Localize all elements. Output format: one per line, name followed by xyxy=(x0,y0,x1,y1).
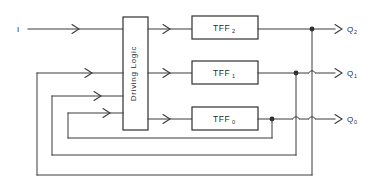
tff0-label: TFF xyxy=(213,114,230,124)
q1-arrowhead-icon xyxy=(335,69,342,78)
feedback-path-1 xyxy=(52,92,296,156)
input-label: I xyxy=(17,25,19,34)
feedback-path-2 xyxy=(37,69,312,176)
q2-label: Q xyxy=(347,25,353,34)
q0-label: Q xyxy=(347,115,353,124)
tff1-label-subscript: 1 xyxy=(232,73,235,79)
circuit-diagram-figure: Driving Logic TFF 2 Q 2 TFF 1 xyxy=(0,0,377,193)
q0-arrowhead-icon xyxy=(335,115,342,124)
tff2-row: TFF 2 Q 2 xyxy=(148,16,357,39)
input-line-group xyxy=(28,25,123,34)
tff1-row: TFF 1 Q 1 xyxy=(148,61,357,84)
circuit-canvas: Driving Logic TFF 2 Q 2 TFF 1 xyxy=(0,0,377,193)
q2-label-subscript: 2 xyxy=(354,29,357,35)
q1-label: Q xyxy=(347,69,353,78)
tff2-label-subscript: 2 xyxy=(232,28,235,34)
q0-label-subscript: 0 xyxy=(354,119,357,125)
driving-logic-label: Driving Logic xyxy=(129,46,138,101)
tff2-label: TFF xyxy=(213,23,230,33)
driving-logic-block[interactable]: Driving Logic xyxy=(123,17,148,130)
tff0-row: TFF 0 Q 0 xyxy=(148,107,357,130)
output-bus-group xyxy=(272,29,312,175)
q2-arrowhead-icon xyxy=(335,25,342,34)
tff0-label-subscript: 0 xyxy=(232,119,235,125)
tff1-label: TFF xyxy=(213,68,230,78)
q1-label-subscript: 1 xyxy=(354,73,357,79)
